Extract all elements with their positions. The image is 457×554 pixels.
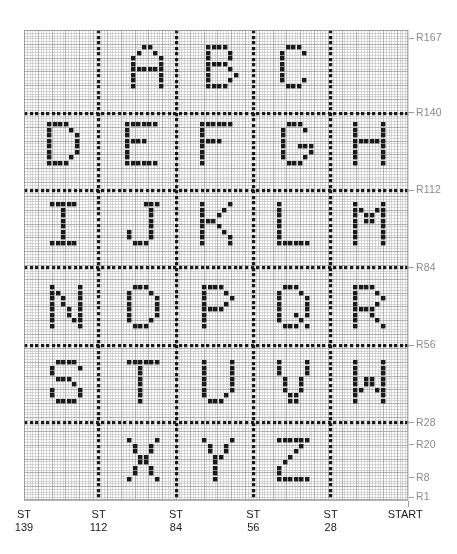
row-tick-label-r167: R167 [416, 31, 442, 43]
row-tick-mark [409, 444, 414, 445]
stitch-tick-line1: ST [301, 508, 361, 521]
row-tick-label-r112: R112 [416, 183, 441, 195]
stitch-tick-line1: ST [146, 508, 206, 521]
stitch-tick-line2: 112 [69, 521, 129, 534]
row-tick-mark [409, 112, 414, 113]
stitch-tick-start: START [375, 508, 435, 521]
stitch-tick-139: ST139 [0, 508, 54, 533]
stitch-tick-56: ST56 [223, 508, 283, 533]
stitch-tick-line2: 56 [223, 521, 283, 534]
row-tick-mark [409, 477, 414, 478]
row-tick-mark [409, 345, 414, 346]
stitch-tick-line2: 84 [146, 521, 206, 534]
row-tick-label-r1: R1 [416, 490, 430, 502]
stitch-tick-line1: ST [0, 508, 54, 521]
stitch-tick-28: ST28 [301, 508, 361, 533]
row-tick-label-r140: R140 [416, 106, 442, 118]
row-tick-mark [409, 38, 414, 39]
chart-grid-canvas [0, 0, 457, 554]
row-tick-mark [409, 267, 414, 268]
row-tick-label-r56: R56 [416, 338, 436, 350]
row-tick-mark [409, 497, 414, 498]
stitch-tick-line2: 139 [0, 521, 54, 534]
row-tick-label-r28: R28 [416, 416, 436, 428]
start-tick-mark [408, 501, 409, 507]
stitch-tick-line2: 28 [301, 521, 361, 534]
stitch-tick-line1: START [375, 508, 435, 521]
stitch-tick-84: ST84 [146, 508, 206, 533]
stitch-tick-line1: ST [69, 508, 129, 521]
stitch-tick-line1: ST [223, 508, 283, 521]
row-tick-mark [409, 422, 414, 423]
row-tick-label-r20: R20 [416, 438, 436, 450]
row-tick-label-r84: R84 [416, 261, 436, 273]
row-tick-mark [409, 190, 414, 191]
knitting-alphabet-chart: R167R140R112R84R56R28R20R8R1 ST139ST112S… [0, 0, 457, 554]
stitch-tick-112: ST112 [69, 508, 129, 533]
row-tick-label-r8: R8 [416, 471, 430, 483]
